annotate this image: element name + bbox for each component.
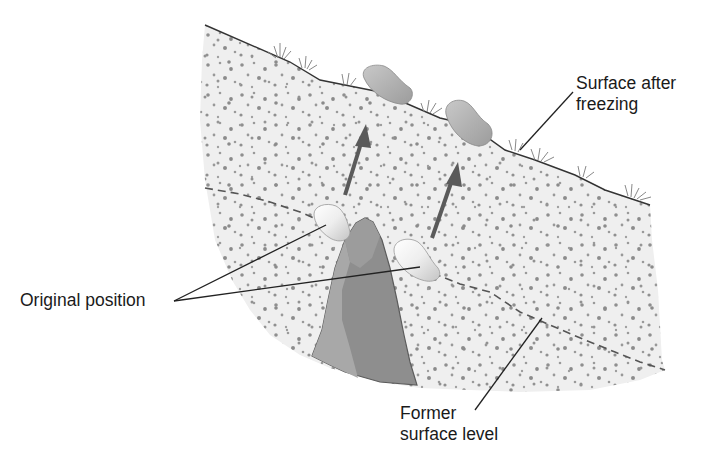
label-former-surface-level: Former surface level <box>400 403 498 445</box>
label-former-surface-level-line1: Former <box>400 403 498 424</box>
label-surface-after-freezing-line1: Surface after <box>576 73 676 94</box>
label-former-surface-level-line2: surface level <box>400 424 498 445</box>
frost-heave-diagram: Surface after freezing Original position… <box>0 0 707 453</box>
diagram-canvas <box>0 0 707 453</box>
label-surface-after-freezing: Surface after freezing <box>576 73 676 115</box>
label-surface-after-freezing-line2: freezing <box>576 94 676 115</box>
label-original-position-text: Original position <box>20 290 145 311</box>
label-original-position: Original position <box>20 290 145 311</box>
leader-surface-after-freezing <box>520 92 573 150</box>
